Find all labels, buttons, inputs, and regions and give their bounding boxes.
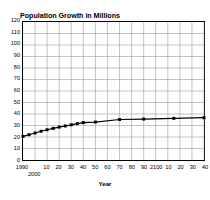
x-axis-tick-label: 2000 <box>24 172 44 178</box>
x-axis-title: Year <box>0 180 210 187</box>
chart-container: Population Growth in Millions 1201101009… <box>0 0 210 200</box>
x-axis-tick-labels: 19902000102030405060708090210010203040 <box>0 0 210 200</box>
x-axis-tick-label: 40 <box>195 165 210 171</box>
x-axis-tick-label: 1990 <box>12 165 32 171</box>
